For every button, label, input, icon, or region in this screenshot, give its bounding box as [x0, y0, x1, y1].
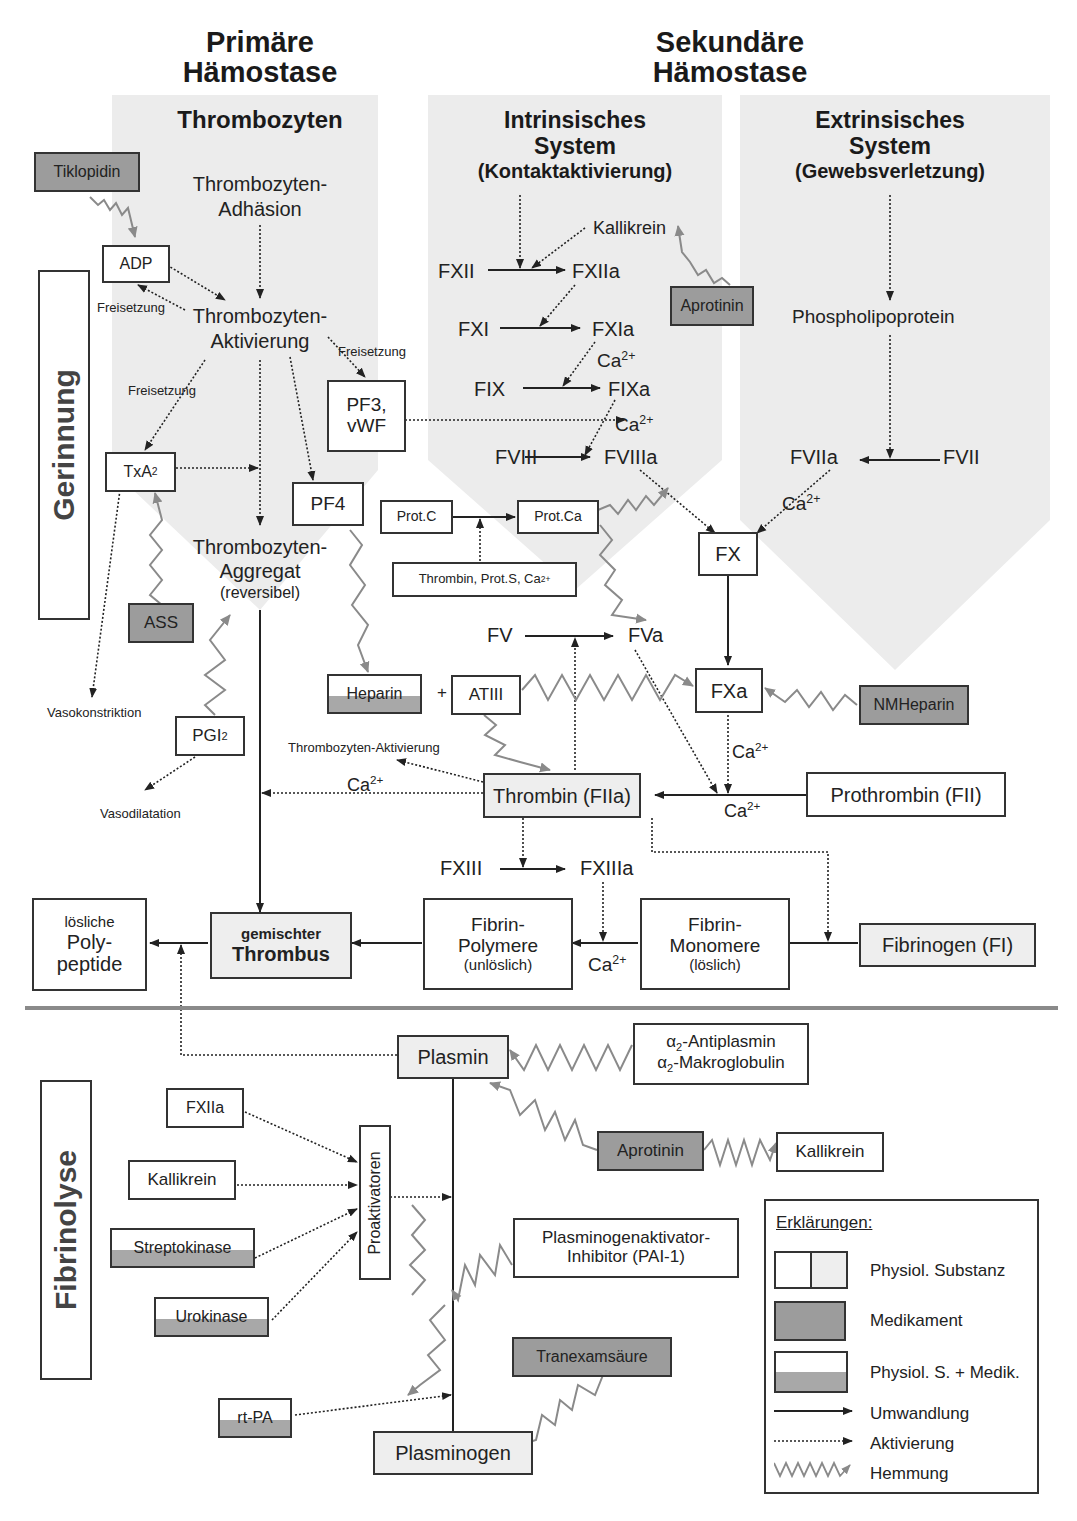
node-kallikrein-left: Kallikrein [128, 1160, 236, 1200]
node-fix: FIX [474, 378, 505, 401]
node-pf3-vwf: PF3,vWF [327, 380, 406, 452]
node-kallikrein-right: Kallikrein [776, 1132, 884, 1172]
legend-swatch-phys-gray [810, 1251, 848, 1289]
node-kallikrein-intrinsic: Kallikrein [593, 218, 666, 239]
legend-label-physiol: Physiol. Substanz [870, 1261, 1005, 1281]
node-fxii: FXII [438, 260, 475, 283]
node-pgi2: PGI2 [175, 716, 245, 756]
node-urokinase: Urokinase [154, 1297, 269, 1337]
label-ca-fibrin: Ca2+ [588, 953, 626, 976]
node-prothrombin: Prothrombin (FII) [806, 772, 1006, 817]
label-ca-fviia: Ca2+ [782, 492, 820, 515]
legend-label-aktivierung: Aktivierung [870, 1434, 954, 1454]
label-ca-thrombin: Ca2+ [347, 773, 383, 796]
node-prot-c: Prot.C [380, 500, 453, 534]
node-fxiia: FXIIa [572, 260, 620, 283]
node-plasmin: Plasmin [397, 1035, 509, 1079]
node-antiplasmin: α2-Antiplasmin α2-Makroglobulin [633, 1023, 809, 1085]
zigzag-inhibition-icon [774, 1463, 850, 1476]
label-ca-fixa: Ca2+ [615, 413, 653, 436]
node-fviiia: FVIIIa [604, 446, 657, 469]
node-aprotinin-coagulation: Aprotinin [670, 286, 754, 326]
node-heparin: Heparin [327, 674, 422, 714]
label-freisetzung-txa2: Freisetzung [128, 383, 196, 398]
node-plasminogen: Plasminogen [373, 1431, 533, 1475]
node-thrombozyten-aggregat: Thrombozyten-Aggregat (reversibel) [180, 535, 340, 602]
legend-title: Erklärungen: [776, 1213, 872, 1233]
node-fxia: FXIa [592, 318, 634, 341]
node-fixa: FIXa [608, 378, 650, 401]
label-vasokonstriktion: Vasokonstriktion [47, 705, 141, 720]
node-fibrin-polymere: Fibrin-Polymere (unlöslich) [423, 898, 573, 990]
node-phospholipoprotein: Phospholipoprotein [792, 306, 955, 328]
label-thrombozyten-aktivierung: Thrombozyten-Aktivierung [288, 740, 440, 755]
node-atiii: ATIII [451, 675, 521, 715]
node-fxi: FXI [458, 318, 489, 341]
node-loesliche-polypeptide: lösliche Poly- peptide [32, 898, 147, 991]
node-fxiii: FXIII [440, 857, 482, 880]
node-cofactors: Thrombin, Prot.S, Ca2+ [392, 562, 577, 597]
legend-label-mixed: Physiol. S. + Medik. [870, 1363, 1020, 1383]
node-fv: FV [487, 624, 513, 647]
node-thrombozyten-aktivierung: Thrombozyten-Aktivierung [185, 304, 335, 354]
label-ca-prothrombin: Ca2+ [724, 799, 760, 822]
label-plus: + [437, 683, 447, 703]
node-nmheparin: NMHeparin [859, 685, 969, 725]
legend-label-medikament: Medikament [870, 1311, 963, 1331]
node-fvii: FVII [943, 446, 980, 469]
legend-swatch-mixed [774, 1351, 848, 1393]
label-ca-fxa: Ca2+ [732, 740, 768, 763]
node-fibrinogen: Fibrinogen (FI) [859, 923, 1036, 967]
node-fxa: FXa [695, 668, 763, 713]
legend: Erklärungen: Physiol. Substanz Medikamen… [764, 1199, 1039, 1494]
node-pai-1: Plasminogenaktivator-Inhibitor (PAI-1) [513, 1218, 739, 1278]
label-ca-fxia: Ca2+ [597, 349, 635, 372]
node-fva: FVa [628, 624, 663, 647]
section-divider [25, 1006, 1058, 1010]
legend-swatch-drug [774, 1301, 846, 1341]
node-gemischter-thrombus: gemischter Thrombus [210, 912, 352, 979]
node-fviii: FVIII [495, 446, 537, 469]
label-freisetzung-adp: Freisetzung [97, 300, 165, 315]
node-tranexamsaeure: Tranexamsäure [512, 1337, 672, 1377]
node-streptokinase: Streptokinase [110, 1228, 255, 1268]
node-thrombin: Thrombin (FIIa) [483, 773, 641, 818]
node-thrombozyten-adhaesion: Thrombozyten-Adhäsion [185, 172, 335, 222]
legend-label-hemmung: Hemmung [870, 1464, 948, 1484]
node-fxiia-fibrinolysis: FXIIa [166, 1088, 244, 1128]
label-freisetzung-pf3: Freisetzung [338, 344, 406, 359]
node-fibrin-monomere: Fibrin-Monomere (löslich) [640, 898, 790, 990]
node-pf4: PF4 [292, 482, 364, 526]
node-txa2: TxA2 [105, 452, 176, 492]
legend-label-umwandlung: Umwandlung [870, 1404, 969, 1424]
node-prot-ca: Prot.Ca [517, 500, 599, 534]
legend-swatch-phys-white [774, 1251, 812, 1289]
label-vasodilatation: Vasodilatation [100, 806, 181, 821]
node-tiklopidin: Tiklopidin [34, 152, 140, 192]
node-proaktivatoren: Proaktivatoren [359, 1125, 391, 1280]
node-fviia: FVIIa [790, 446, 838, 469]
node-fx: FX [698, 532, 758, 576]
node-rt-pa: rt-PA [218, 1398, 292, 1438]
node-ass: ASS [128, 603, 194, 643]
legend-line-icons [774, 1401, 864, 1491]
node-fxiiia: FXIIIa [580, 857, 633, 880]
node-adp: ADP [102, 245, 170, 283]
node-aprotinin-fibrinolysis: Aprotinin [597, 1131, 704, 1171]
